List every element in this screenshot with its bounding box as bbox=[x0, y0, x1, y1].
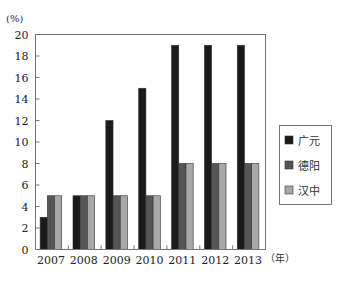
y-tick-label: 2 bbox=[22, 222, 29, 235]
x-tick-label: 2012 bbox=[201, 254, 229, 267]
bar-2007-广元 bbox=[40, 217, 47, 249]
y-tick-label: 10 bbox=[15, 136, 29, 149]
legend-swatch-广元 bbox=[285, 136, 293, 144]
bar-2009-广元 bbox=[106, 121, 113, 250]
bar-2008-德阳 bbox=[80, 196, 87, 250]
y-tick-label: 18 bbox=[15, 50, 29, 63]
bar-2012-德阳 bbox=[212, 164, 219, 250]
bar-2010-德阳 bbox=[146, 196, 153, 250]
legend: 广元德阳汉中 bbox=[280, 126, 332, 205]
y-tick-label: 0 bbox=[22, 244, 29, 257]
bar-2008-广元 bbox=[73, 196, 80, 250]
bar-2009-德阳 bbox=[113, 196, 120, 250]
bar-2007-德阳 bbox=[47, 196, 54, 250]
bar-2011-德阳 bbox=[179, 164, 186, 250]
y-tick-label: 16 bbox=[15, 72, 29, 85]
x-tick-label: 2007 bbox=[37, 254, 65, 267]
x-tick-label: 2008 bbox=[70, 254, 98, 267]
bar-2012-广元 bbox=[204, 45, 211, 249]
legend-label-广元: 广元 bbox=[298, 135, 320, 148]
bar-2013-德阳 bbox=[244, 164, 251, 250]
bar-2008-汉中 bbox=[87, 196, 94, 250]
bar-2011-广元 bbox=[172, 45, 179, 249]
y-tick-label: 20 bbox=[15, 29, 29, 42]
x-axis-unit-label: （年） bbox=[265, 252, 295, 264]
bar-2007-汉中 bbox=[55, 196, 62, 250]
bar-2013-汉中 bbox=[252, 164, 259, 250]
bar-2009-汉中 bbox=[120, 196, 127, 250]
x-tick-label: 2013 bbox=[234, 254, 262, 267]
bar-2010-汉中 bbox=[153, 196, 160, 250]
bar-2010-广元 bbox=[139, 88, 146, 249]
bar-2013-广元 bbox=[237, 45, 244, 249]
x-tick-label: 2010 bbox=[136, 254, 164, 267]
x-tick-label: 2009 bbox=[103, 254, 131, 267]
legend-label-德阳: 德阳 bbox=[298, 159, 320, 173]
bar-2011-汉中 bbox=[186, 164, 193, 250]
y-tick-label: 4 bbox=[22, 201, 29, 214]
legend-label-汉中: 汉中 bbox=[298, 185, 320, 198]
y-tick-label: 12 bbox=[15, 115, 29, 128]
y-tick-label: 6 bbox=[22, 179, 29, 192]
y-tick-label: 14 bbox=[15, 93, 29, 106]
bar-chart: 02468101214161820 2007200820092010201120… bbox=[0, 0, 346, 283]
bar-2012-汉中 bbox=[219, 164, 226, 250]
y-axis-unit-label: (%) bbox=[6, 13, 23, 24]
x-tick-label: 2011 bbox=[168, 254, 196, 267]
bars-group bbox=[40, 45, 259, 249]
legend-swatch-德阳 bbox=[285, 161, 293, 169]
legend-swatch-汉中 bbox=[285, 186, 293, 194]
y-tick-label: 8 bbox=[22, 158, 29, 171]
